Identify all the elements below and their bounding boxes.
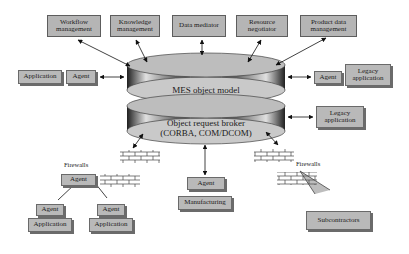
manufacturing-box[interactable]: Manufacturing [178, 196, 232, 210]
module-data-mediator-label: Data mediator [172, 15, 226, 37]
firewalls-label-left: Firewalls [64, 161, 88, 168]
arrow-workflow [78, 40, 130, 66]
module-data-mediator[interactable]: Data mediator [172, 11, 234, 37]
orb-label-line2: (CORBA, COM/DCOM) [145, 128, 267, 138]
module-workflow-label: Workflow management [47, 15, 101, 37]
orb-label-line1: Object request broker [145, 118, 267, 128]
manufacturing-agent-box[interactable]: Agent [187, 177, 225, 190]
subcontractors-box[interactable]: Subcontractors [306, 211, 371, 230]
application-box-right[interactable]: Application [89, 218, 133, 232]
firewall-icon-right [277, 172, 317, 185]
mes-object-model-label: MES object model [150, 85, 262, 95]
module-resource-negotiator[interactable]: Resource negotiator [236, 11, 296, 37]
left-agent-box[interactable]: Agent [66, 70, 96, 84]
legacy-application-box-2[interactable]: Legacy application [316, 106, 364, 128]
firewalls-label-right: Firewalls [296, 160, 320, 167]
legacy-application-box-1[interactable]: Legacy application [345, 64, 391, 86]
firewall-icon-right-top [254, 149, 294, 162]
agent-box-top[interactable]: Agent [61, 174, 96, 186]
firewall-icon-left-top [120, 150, 160, 163]
agent-box-right[interactable]: Agent [97, 204, 125, 216]
module-resource-negotiator-label: Resource negotiator [236, 15, 288, 37]
agent-box-left[interactable]: Agent [36, 204, 64, 216]
module-workflow[interactable]: Workflow management [47, 11, 109, 37]
left-application-box[interactable]: Application [18, 70, 62, 84]
module-product-data-label: Product data management [300, 15, 357, 37]
module-product-data[interactable]: Product data management [300, 11, 365, 37]
firewall-icon-left [100, 174, 140, 187]
application-box-left[interactable]: Application [28, 218, 72, 232]
right-agent-box[interactable]: Agent [314, 71, 342, 84]
module-knowledge[interactable]: Knowledge management [110, 11, 168, 37]
arrow-product-data [276, 38, 326, 65]
module-knowledge-label: Knowledge management [110, 15, 160, 37]
